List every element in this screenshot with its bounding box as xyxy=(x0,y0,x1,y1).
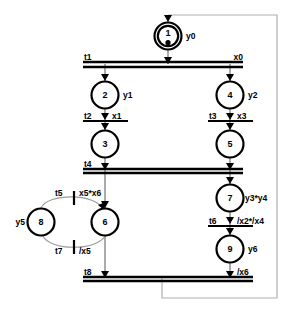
step-3[interactable]: 3 xyxy=(92,131,119,158)
condition-label-t5: x5*x6 xyxy=(79,188,101,198)
action-label-y1: y1 xyxy=(123,90,133,100)
condition-label-t8: /x6 xyxy=(237,267,249,277)
transition-t1[interactable] xyxy=(83,62,243,67)
transition-t8[interactable] xyxy=(83,277,253,281)
condition-label-x0: x0 xyxy=(234,52,244,62)
step-1-token xyxy=(165,40,170,45)
step-8[interactable]: 8 xyxy=(28,209,55,236)
step-7[interactable]: 7 xyxy=(217,185,244,212)
step-1[interactable]: 1 xyxy=(155,23,182,50)
sfc-diagram-canvas: 1 2 3 4 5 6 7 8 xyxy=(0,0,295,311)
transition-label-t3: t3 xyxy=(209,111,217,121)
action-label-y3y4: y3*y4 xyxy=(245,193,267,203)
step-2[interactable]: 2 xyxy=(92,82,119,109)
transition-label-t2: t2 xyxy=(84,111,92,121)
transition-label-t8: t8 xyxy=(84,267,92,277)
action-label-y0: y0 xyxy=(186,31,196,41)
step-4[interactable]: 4 xyxy=(217,82,244,109)
transition-label-t1: t1 xyxy=(84,52,92,62)
transition-t4[interactable] xyxy=(83,169,243,173)
transition-label-t5: t5 xyxy=(55,188,63,198)
flow-lines xyxy=(105,15,230,278)
step-8-number: 8 xyxy=(38,217,43,227)
step-5-number: 5 xyxy=(227,139,232,149)
condition-label-x3: x3 xyxy=(237,111,247,121)
step-4-number: 4 xyxy=(227,90,232,100)
step-1-number: 1 xyxy=(165,28,170,38)
step-2-number: 2 xyxy=(102,90,107,100)
transition-label-t6: t6 xyxy=(209,216,217,226)
transition-label-t7: t7 xyxy=(55,246,63,256)
step-7-number: 7 xyxy=(227,193,232,203)
action-label-y2: y2 xyxy=(248,90,258,100)
sfc-svg: 1 2 3 4 5 6 7 8 xyxy=(0,0,295,311)
condition-label-x1: x1 xyxy=(112,111,122,121)
step-6[interactable]: 6 xyxy=(92,209,119,236)
action-label-y5: y5 xyxy=(16,217,26,227)
condition-label-t6: /x2*/x4 xyxy=(237,216,264,226)
step-9[interactable]: 9 xyxy=(217,236,244,263)
step-9-number: 9 xyxy=(227,244,232,254)
step-6-number: 6 xyxy=(102,217,107,227)
action-label-y6: y6 xyxy=(248,244,258,254)
condition-label-t7: /x5 xyxy=(79,246,91,256)
step-5[interactable]: 5 xyxy=(217,131,244,158)
step-3-number: 3 xyxy=(102,139,107,149)
transition-label-t4: t4 xyxy=(84,159,92,169)
